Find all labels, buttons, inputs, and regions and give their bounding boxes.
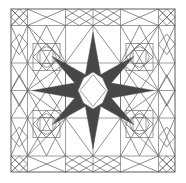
artwork-group [11,9,175,172]
geometric-pattern-figure [0,0,186,183]
pattern-canvas: Symmetric geometric tile pattern [0,0,186,183]
